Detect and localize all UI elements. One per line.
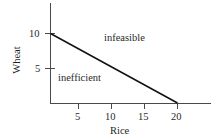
- y-axis-title: Wheat: [5, 38, 27, 82]
- x-tick-label-15: 15: [138, 112, 149, 123]
- x-tick-label-10: 10: [105, 112, 116, 123]
- ppf-chart-figure: Wheat 10 5 5 10 15 20 Rice infeasible in…: [0, 0, 217, 140]
- y-axis-title-text: Wheat: [11, 46, 22, 73]
- region-label-inefficient: inefficient: [58, 73, 101, 84]
- region-label-infeasible: infeasible: [104, 33, 145, 44]
- x-axis-title: Rice: [110, 126, 129, 137]
- frontier-line: [51, 34, 178, 104]
- x-tick-label-5: 5: [75, 112, 80, 123]
- y-tick-label-5: 5: [35, 64, 40, 75]
- y-tick-label-10: 10: [29, 29, 40, 40]
- x-tick-label-20: 20: [171, 112, 182, 123]
